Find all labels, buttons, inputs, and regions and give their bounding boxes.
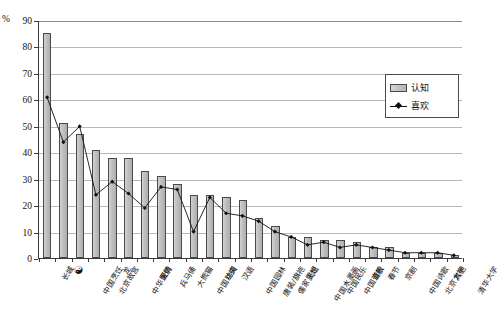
y-tick-mark-0 <box>34 259 38 260</box>
y-tick-label-10: 10 <box>0 228 32 238</box>
x-axis-tickmarks <box>39 21 462 258</box>
y-tick-label-70: 70 <box>0 69 32 79</box>
x-tick-mark <box>463 258 464 262</box>
legend-label-liking: 喜欢 <box>411 102 429 111</box>
y-tick-label-20: 20 <box>0 201 32 211</box>
legend-item-liking: 喜欢 <box>390 97 455 115</box>
legend-line-marker-icon <box>390 102 407 110</box>
y-tick-label-40: 40 <box>0 148 32 158</box>
x-axis-label: 汉语 <box>238 263 256 282</box>
y-tick-label-0: 0 <box>0 254 32 264</box>
y-tick-label-50: 50 <box>0 122 32 132</box>
x-axis-label: 春节 <box>385 263 403 282</box>
y-tick-label-80: 80 <box>0 42 32 52</box>
y-tick-label-90: 90 <box>0 16 32 26</box>
y-tick-label-30: 30 <box>0 175 32 185</box>
legend-bar-swatch-icon <box>390 84 407 92</box>
x-axis-labels: 长城☯中国烹饪北京故宫龙中华医药爱情兵马俑大熊猫中国功夫丝绸汉语中国园林唐装/旗… <box>38 261 462 327</box>
x-axis-label: ☯ <box>72 263 87 277</box>
legend-item-recognition: 认知 <box>390 79 455 97</box>
plot-area <box>38 21 462 259</box>
y-tick-label-60: 60 <box>0 95 32 105</box>
legend-label-recognition: 认知 <box>411 84 429 93</box>
chart-legend: 认知 喜欢 <box>385 74 459 118</box>
x-axis-label: 清华大学 <box>474 263 500 296</box>
x-axis-label: 兵马俑 <box>177 263 199 289</box>
x-axis-label: 京剧 <box>401 263 419 282</box>
